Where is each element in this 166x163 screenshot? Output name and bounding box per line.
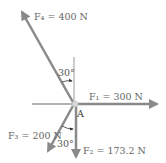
lower-angle-label: 30° [57, 138, 74, 149]
lower-angle-arc [62, 126, 73, 129]
force-f4-label: F₄ = 400 N [34, 11, 88, 22]
force-f4-arrow [22, 12, 74, 104]
point-a-marker [72, 101, 78, 107]
force-diagram: F₄ = 400 N F₁ = 300 N F₃ = 200 N F₂ = 17… [0, 0, 166, 163]
upper-angle-label: 30° [58, 67, 75, 78]
upper-angle-arc [62, 81, 72, 82]
point-a-label: A [76, 108, 84, 119]
force-f1-label: F₁ = 300 N [89, 91, 143, 102]
force-f2-label: F₂ = 173.2 N [83, 145, 146, 156]
force-f3-label: F₃ = 200 N [8, 130, 62, 141]
